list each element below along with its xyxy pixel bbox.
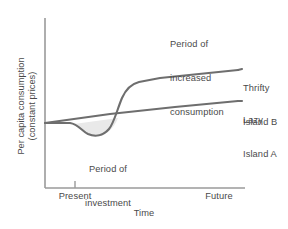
annotation-period-of-increased-consumption: Period of increased consumption [170,17,224,140]
y-axis-label: Per capita consumption (constant prices) [16,36,42,176]
thrifty-label-leader [238,69,242,70]
annotation-increased-line-3: consumption [170,107,224,118]
series-label-lazy-line-1: Lazy [243,115,277,126]
annotation-investment-line-1: Period of [66,164,150,175]
x-tick-label-future: Future [196,191,242,202]
x-axis-label: Time [104,208,184,219]
series-label-lazy-line-2: Island A [243,149,277,160]
chart-figure: Per capita consumption (constant prices)… [0,0,288,229]
series-label-lazy-island-a: Lazy Island A [243,93,277,183]
y-axis-label-line-1: Per capita consumption [16,57,27,154]
y-axis-label-line-2: (constant prices) [27,72,38,141]
annotation-increased-line-1: Period of [170,39,224,50]
x-tick-label-present: Present [52,191,98,202]
annotation-increased-line-2: increased [170,73,224,84]
